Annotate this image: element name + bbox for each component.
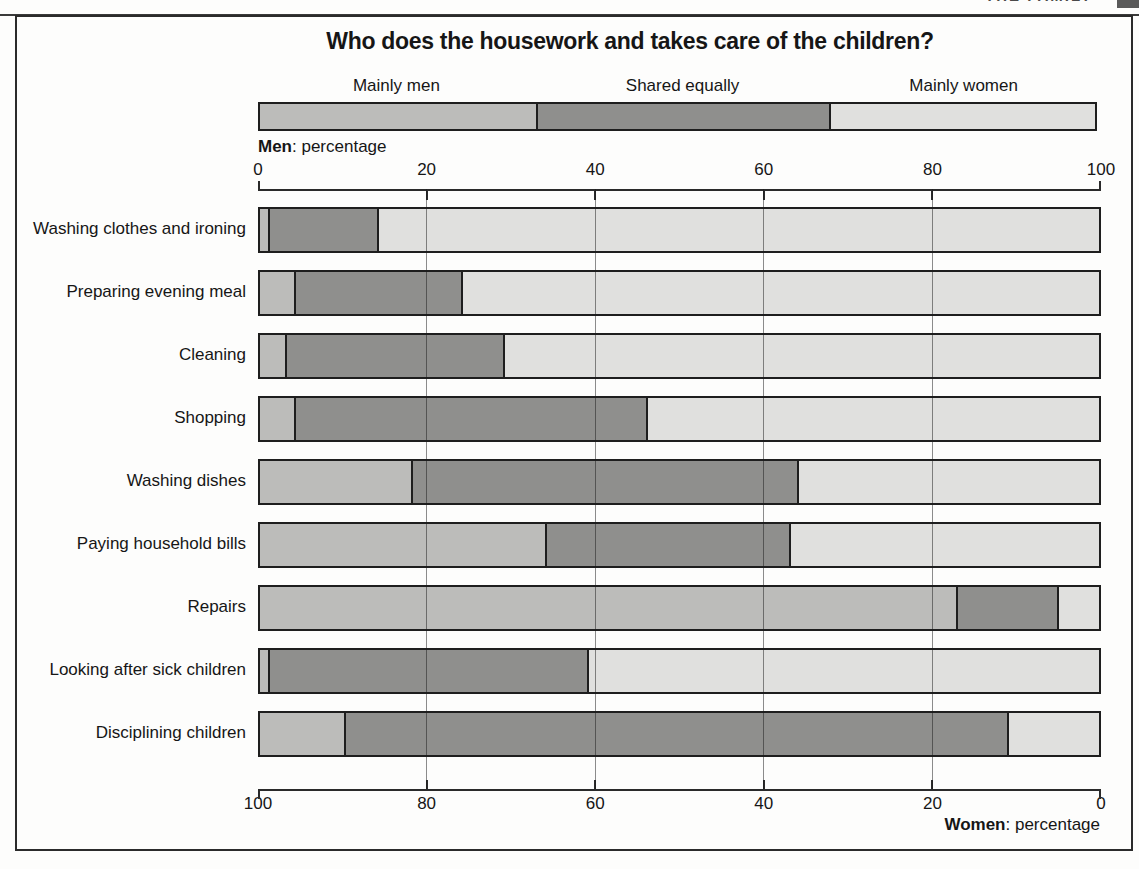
legend-swatch-1: [260, 104, 536, 129]
top-tick-label: 40: [586, 160, 605, 180]
clipped-page-header: THE FAMILY: [985, 0, 1115, 6]
bar-segment: [789, 524, 1099, 566]
bar-segment: [503, 335, 1099, 377]
top-tick-label: 80: [923, 160, 942, 180]
category-label: Washing clothes and ironing: [0, 219, 246, 239]
legend-swatch-3: [829, 104, 1095, 129]
legend-label-3: Mainly women: [909, 76, 1018, 96]
bar-segment: [260, 713, 344, 755]
bar-segment: [260, 650, 268, 692]
bar-segment: [260, 587, 956, 629]
bar-row: [258, 270, 1101, 316]
gridline-40: [595, 189, 596, 789]
category-label: Paying household bills: [0, 534, 246, 554]
top-tick-label: 60: [754, 160, 773, 180]
women-axis-caption-rest: : percentage: [1005, 815, 1100, 834]
bar-segment: [1007, 713, 1099, 755]
top-axis-endcap: [258, 181, 260, 189]
bottom-axis-line: [258, 789, 1101, 791]
bar-segment: [377, 209, 1099, 251]
bottom-tick-label: 0: [1096, 794, 1105, 814]
bar-segment: [260, 335, 285, 377]
bar-segment: [411, 461, 797, 503]
bar-segment: [294, 272, 462, 314]
bottom-tick-label: 20: [923, 794, 942, 814]
category-label: Washing dishes: [0, 471, 246, 491]
legend-label-1: Mainly men: [353, 76, 440, 96]
bar-segment: [294, 398, 646, 440]
page-corner-mark: [1117, 0, 1139, 8]
top-axis-endcap: [1099, 181, 1101, 189]
bottom-axis-endcap: [258, 791, 260, 799]
bar-segment: [545, 524, 788, 566]
clipped-page-header-text: THE FAMILY: [985, 0, 1115, 4]
bar-segment: [260, 461, 411, 503]
bottom-tick-label: 40: [754, 794, 773, 814]
women-axis-caption: Women: percentage: [700, 815, 1100, 835]
women-axis-caption-bold: Women: [944, 815, 1005, 834]
men-axis-caption-rest: : percentage: [292, 137, 387, 156]
bar-segment: [260, 524, 545, 566]
bar-segment: [268, 650, 587, 692]
bar-row: [258, 522, 1101, 568]
men-axis-caption: Men: percentage: [258, 137, 387, 157]
category-label: Shopping: [0, 408, 246, 428]
top-axis-line: [258, 189, 1101, 191]
bar-row: [258, 333, 1101, 379]
category-label: Cleaning: [0, 345, 246, 365]
legend-label-2: Shared equally: [626, 76, 739, 96]
page: THE FAMILY Who does the housework and ta…: [0, 0, 1139, 869]
gridline-80: [932, 189, 933, 789]
bar-segment: [956, 587, 1057, 629]
bar-segment: [587, 650, 1099, 692]
bar-segment: [1057, 587, 1099, 629]
gridline-60: [763, 189, 764, 789]
bottom-axis-endcap: [1099, 791, 1101, 799]
bar-segment: [344, 713, 1007, 755]
bar-row: [258, 585, 1101, 631]
top-tick-label: 20: [417, 160, 436, 180]
men-axis-caption-bold: Men: [258, 137, 292, 156]
top-tick-label: 0: [253, 160, 262, 180]
category-label: Looking after sick children: [0, 660, 246, 680]
gridline-20: [426, 189, 427, 789]
bar-segment: [797, 461, 1099, 503]
bar-segment: [646, 398, 1099, 440]
bar-segment: [260, 209, 268, 251]
legend-bar: [258, 102, 1097, 131]
bar-segment: [260, 272, 294, 314]
bottom-tick-label: 80: [417, 794, 436, 814]
bar-row: [258, 459, 1101, 505]
legend-swatch-2: [536, 104, 830, 129]
bar-row: [258, 648, 1101, 694]
category-label: Preparing evening meal: [0, 282, 246, 302]
bar-row: [258, 396, 1101, 442]
bar-segment: [285, 335, 503, 377]
bar-segment: [461, 272, 1099, 314]
top-tick-label: 100: [1087, 160, 1115, 180]
bar-segment: [260, 398, 294, 440]
category-label: Disciplining children: [0, 723, 246, 743]
category-label: Repairs: [0, 597, 246, 617]
chart-title: Who does the housework and takes care of…: [140, 28, 1120, 55]
bar-row: [258, 711, 1101, 757]
bar-row: [258, 207, 1101, 253]
bottom-tick-label: 60: [586, 794, 605, 814]
bar-segment: [268, 209, 377, 251]
